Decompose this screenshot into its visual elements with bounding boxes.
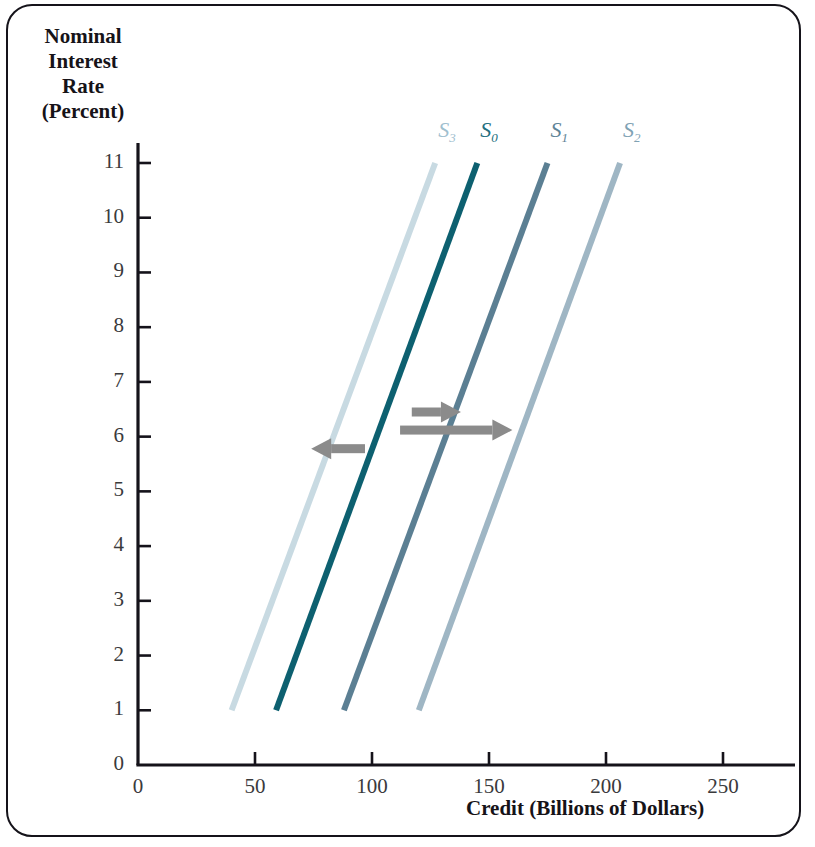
x-tick-label: 200	[566, 774, 646, 799]
y-tick-label: 9	[82, 258, 124, 283]
x-tick-label: 250	[683, 774, 763, 799]
arrow-head	[311, 438, 331, 459]
arrow-shift-left-arrow	[311, 438, 365, 459]
x-tick-label: 150	[449, 774, 529, 799]
supply-curve-S3	[232, 163, 436, 710]
curve-label-subscript: 2	[634, 130, 641, 145]
y-tick-label: 0	[82, 751, 124, 776]
y-tick-label: 5	[82, 477, 124, 502]
curve-label-subscript: 0	[491, 130, 498, 145]
y-tick-label: 2	[82, 642, 124, 667]
chart-canvas: Nominal Interest Rate (Percent) Credit (…	[0, 0, 815, 847]
curve-label-base: S	[551, 117, 562, 142]
arrow-shaft	[400, 426, 492, 435]
axes	[136, 143, 795, 765]
arrow-head	[492, 420, 512, 441]
curve-label-S1: S1	[551, 117, 569, 146]
y-tick-label: 11	[82, 149, 124, 174]
arrow-shift-right-long-arrow	[400, 420, 512, 441]
curve-label-S2: S2	[623, 117, 641, 146]
y-tick-label: 10	[82, 204, 124, 229]
curve-label-subscript: 3	[449, 130, 456, 145]
supply-curves	[232, 163, 620, 710]
arrow-shaft	[412, 408, 441, 417]
y-tick-label: 8	[82, 313, 124, 338]
y-tick-label: 6	[82, 423, 124, 448]
y-tick-label: 4	[82, 532, 124, 557]
y-tick-label: 1	[82, 696, 124, 721]
x-tick-label: 100	[332, 774, 412, 799]
curve-label-S0: S0	[480, 117, 498, 146]
y-tick-label: 3	[82, 587, 124, 612]
curve-label-base: S	[480, 117, 491, 142]
x-tick-label: 50	[215, 774, 295, 799]
curve-label-subscript: 1	[562, 130, 569, 145]
y-tick-label: 7	[82, 368, 124, 393]
curve-label-base: S	[438, 117, 449, 142]
curve-label-base: S	[623, 117, 634, 142]
curve-label-S3: S3	[438, 117, 456, 146]
x-tick-label: 0	[98, 774, 178, 799]
arrow-shaft	[331, 444, 365, 453]
